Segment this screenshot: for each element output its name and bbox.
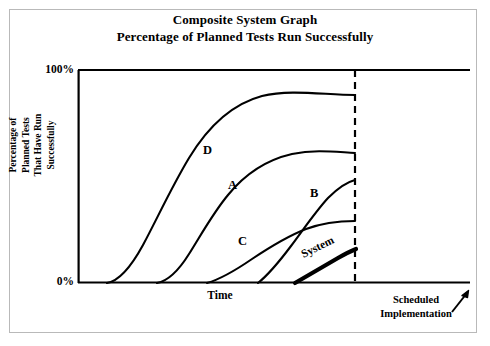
- curve-label-d: D: [203, 143, 212, 158]
- y-axis-title-line-4: Successfully: [45, 75, 58, 215]
- implementation-label-line-2: Implementation: [362, 307, 470, 321]
- y-tick-label-0: 0%: [28, 275, 74, 287]
- y-axis-title-line-3: That Have Run: [32, 75, 45, 215]
- implementation-label-line-1: Scheduled: [362, 293, 470, 307]
- curve-series-b: [258, 180, 355, 283]
- curve-series-c: [207, 221, 355, 283]
- chart-figure: Composite System Graph Percentage of Pla…: [0, 0, 490, 346]
- curve-label-b: B: [310, 186, 318, 201]
- y-tick-label-100: 100%: [28, 63, 74, 75]
- curve-label-a: A: [228, 178, 237, 193]
- curve-label-c: C: [238, 234, 247, 249]
- x-axis-title: Time: [160, 289, 280, 301]
- y-axis-title-line-1: Percentage of: [7, 75, 20, 215]
- y-axis-title: Percentage of Planned Tests That Have Ru…: [7, 75, 57, 215]
- y-axis-title-line-2: Planned Tests: [19, 75, 32, 215]
- scheduled-implementation-annotation: Scheduled Implementation: [362, 293, 470, 320]
